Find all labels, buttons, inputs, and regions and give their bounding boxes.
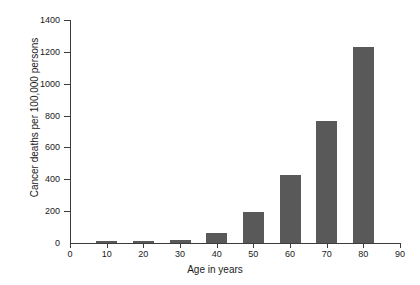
bar xyxy=(96,241,117,243)
bar xyxy=(280,175,301,243)
x-axis-line xyxy=(70,243,401,244)
y-axis-title: Cancer deaths per 100,000 persons xyxy=(29,18,40,218)
bar xyxy=(316,121,337,243)
x-axis-tick xyxy=(217,243,218,248)
bar xyxy=(170,240,191,243)
x-axis-tick-label: 70 xyxy=(312,250,342,259)
x-axis-tick xyxy=(363,243,364,248)
x-axis-title: Age in years xyxy=(0,264,420,275)
bar-series xyxy=(70,20,401,243)
x-axis-tick xyxy=(70,243,71,248)
x-axis-tick-label: 40 xyxy=(202,250,232,259)
bar xyxy=(206,233,227,243)
bar xyxy=(243,212,264,243)
x-axis-tick xyxy=(107,243,108,248)
x-axis-tick-label: 80 xyxy=(348,250,378,259)
x-axis-tick-label: 0 xyxy=(55,250,85,259)
x-axis-tick xyxy=(253,243,254,248)
x-axis-tick-label: 20 xyxy=(128,250,158,259)
x-axis-tick xyxy=(180,243,181,248)
x-axis-tick xyxy=(143,243,144,248)
x-axis-tick xyxy=(290,243,291,248)
x-axis-tick-label: 30 xyxy=(165,250,195,259)
x-axis-title-text: Age in years xyxy=(187,264,243,275)
y-axis-tick-label: 0 xyxy=(26,239,60,248)
x-axis-tick-label: 60 xyxy=(275,250,305,259)
bar xyxy=(133,241,154,243)
x-axis-tick xyxy=(400,243,401,248)
bar xyxy=(353,47,374,243)
x-axis-tick-label: 10 xyxy=(92,250,122,259)
x-axis-tick xyxy=(327,243,328,248)
x-axis-tick-label: 90 xyxy=(385,250,415,259)
cancer-deaths-bar-chart: 0200400600800100012001400 01020304050607… xyxy=(0,0,420,285)
x-axis-tick-label: 50 xyxy=(238,250,268,259)
